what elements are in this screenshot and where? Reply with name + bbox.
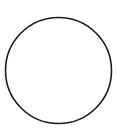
canvas xyxy=(0,0,117,132)
circle-outline xyxy=(6,18,112,124)
